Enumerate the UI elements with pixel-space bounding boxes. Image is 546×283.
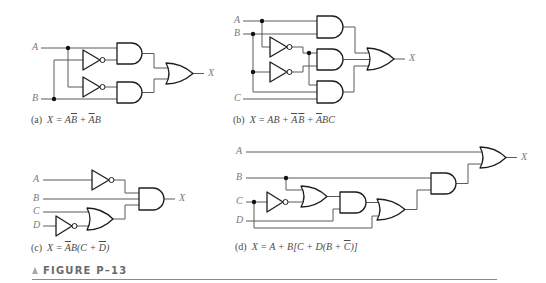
input-label-a: A <box>31 41 39 52</box>
input-label-a: A <box>235 145 243 156</box>
input-label-b: B <box>234 27 240 38</box>
input-label-c: C <box>234 92 241 103</box>
input-label-b: B <box>33 192 39 203</box>
eq-part: X = A + B[C + D(B + <box>252 241 344 252</box>
output-label-x: X <box>207 67 215 78</box>
circuit-c: A B C D X <box>32 170 186 236</box>
or-gate <box>480 147 506 168</box>
input-label-a: A <box>32 173 40 184</box>
or-gate <box>87 208 113 230</box>
and-gate <box>317 81 343 103</box>
input-label-b: B <box>32 92 38 103</box>
not-gate <box>270 37 292 57</box>
not-gate <box>267 192 288 212</box>
equation: X = A + B[C + D(B + C)] <box>252 241 358 252</box>
input-label-a: A <box>233 14 241 25</box>
caption-tag: (a) <box>31 114 42 125</box>
or-gate <box>301 186 327 207</box>
eq-part: BC <box>322 114 335 125</box>
equation: X = AB(C + D) <box>47 242 109 253</box>
and-gate <box>317 16 343 38</box>
eq-part: + <box>304 114 316 125</box>
or-gate <box>377 199 405 220</box>
caption-tag: (c) <box>31 242 42 253</box>
not-gate <box>92 170 114 190</box>
and-gate <box>431 173 456 194</box>
input-label-b: B <box>236 171 242 182</box>
input-label-c: C <box>236 195 243 206</box>
circuit-b: A B C X <box>233 14 416 103</box>
not-gate <box>83 77 105 97</box>
junction-dot <box>251 32 255 36</box>
eq-part-complement: A <box>291 114 297 125</box>
not-gate <box>56 216 77 236</box>
not-gate <box>83 50 105 70</box>
junction-dot <box>52 97 56 101</box>
eq-part: B <box>95 114 101 125</box>
input-label-d: D <box>235 214 244 225</box>
caption-tag: (b) <box>233 114 245 125</box>
eq-part-complement: D <box>99 242 106 253</box>
not-gate <box>270 62 292 82</box>
figure-p13: A B X A B C <box>0 0 546 283</box>
equation: X = AB + AB + ABC <box>250 114 335 125</box>
junction-dot <box>251 70 255 74</box>
and-gate <box>340 192 366 213</box>
output-label-x: X <box>408 52 416 63</box>
junction-dot <box>260 19 264 23</box>
figure-rule-divider <box>32 279 497 280</box>
and-gate <box>117 43 142 64</box>
junction-dot <box>307 51 311 55</box>
eq-part: ) <box>106 242 109 253</box>
eq-part: )] <box>351 241 358 252</box>
eq-part: + <box>77 114 89 125</box>
output-label-x: X <box>178 192 186 203</box>
caption-d: (d)X = A + B[C + D(B + C)] <box>235 241 358 253</box>
junction-dot <box>66 46 70 50</box>
eq-part: X = <box>47 242 65 253</box>
or-gate <box>367 48 394 70</box>
eq-part-complement: C <box>344 241 351 252</box>
eq-part: X = AB + <box>250 114 291 125</box>
circuit-a: A B X <box>31 41 215 103</box>
caption-c: (c)X = AB(C + D) <box>31 242 109 254</box>
circuit-d: A B C D X <box>235 145 528 228</box>
eq-part: B(C + <box>71 242 99 253</box>
input-label-d: D <box>32 219 41 230</box>
or-gate <box>166 63 193 84</box>
output-label-x: X <box>520 151 528 162</box>
caption-tag: (d) <box>235 241 247 252</box>
and-gate <box>317 49 343 70</box>
input-label-c: C <box>33 205 40 216</box>
triangle-marker-icon <box>32 267 38 274</box>
junction-dot <box>252 200 256 204</box>
caption-a: (a)X = AB + AB <box>31 114 101 126</box>
and-gate <box>117 82 142 103</box>
junction-dot <box>284 176 288 180</box>
and-gate <box>139 188 164 210</box>
eq-part: X = A <box>47 114 71 125</box>
figure-label: FIGURE P–13 <box>43 265 127 277</box>
equation: X = AB + AB <box>47 114 101 125</box>
caption-b: (b)X = AB + AB + ABC <box>233 114 335 126</box>
